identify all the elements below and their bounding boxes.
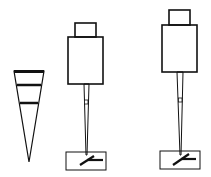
device-2-shaft [177,72,183,155]
device-2-cap [169,10,190,25]
device-2-joint [179,98,183,102]
cone-tip [14,71,44,162]
device-2 [160,10,200,169]
device-1-joint [85,100,89,104]
device-2-body [162,25,197,72]
device-1-shaft [84,84,89,155]
device-1-base-mark [80,156,103,165]
device-1 [66,23,106,170]
diagram-canvas [0,0,211,177]
device-1-cap [75,23,96,37]
device-2-base-mark [173,154,196,165]
device-1-body [68,37,103,84]
